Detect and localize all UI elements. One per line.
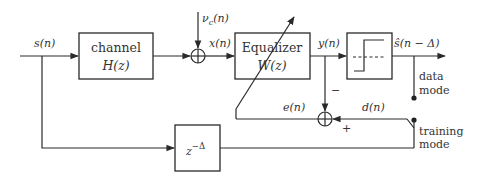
input-signal-label: s(n) (34, 37, 55, 50)
channel-label: channel (91, 40, 141, 55)
equalizer-transfer-function: W(z) (257, 58, 286, 73)
error-summing-junction (318, 112, 332, 126)
noise-summing-junction (191, 49, 205, 63)
training-mode-label-line1: training (419, 125, 463, 138)
error-feedback-path: e(n) (236, 101, 318, 119)
channel-block: channel H(z) (79, 33, 153, 79)
desired-signal-label: d(n) (362, 101, 385, 114)
plus-sign: + (342, 122, 351, 135)
data-mode-tap: data mode (411, 56, 449, 101)
decision-output-path: ŝ(n − Δ) (392, 37, 445, 56)
channel-transfer-function: H(z) (101, 58, 129, 73)
error-signal-label: e(n) (283, 101, 305, 114)
equalizer-block-diagram: s(n) channel H(z) νc(n) x(n) Equalizer W… (0, 0, 477, 179)
decision-output-label: ŝ(n − Δ) (394, 37, 439, 50)
error-minus-path: − (325, 56, 340, 111)
training-mode-tap: training mode (411, 117, 463, 151)
data-mode-label-line1: data (419, 70, 444, 83)
equalizer-block: Equalizer W(z) (235, 33, 310, 79)
mode-switch: d(n) + (333, 101, 414, 135)
noise-label: νc(n) (202, 12, 229, 27)
input-signal-path: s(n) (20, 37, 78, 56)
equalizer-output-path: y(n) (310, 37, 346, 56)
equalizer-input-path: x(n) (205, 37, 234, 56)
training-mode-label-line2: mode (419, 138, 450, 151)
minus-sign: − (331, 84, 340, 97)
equalizer-output-label: y(n) (317, 37, 340, 50)
data-mode-label-line2: mode (419, 84, 450, 97)
decision-block (347, 33, 392, 79)
equalizer-input-label: x(n) (209, 37, 231, 50)
delay-block: z−Δ (175, 125, 220, 171)
